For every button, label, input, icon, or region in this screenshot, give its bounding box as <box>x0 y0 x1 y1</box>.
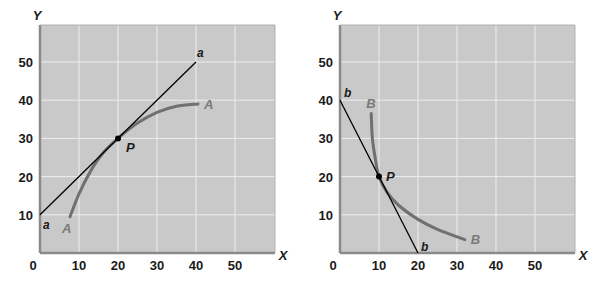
x-tick-label: 0 <box>329 258 336 273</box>
point-p <box>376 174 382 180</box>
y-tick-label: 50 <box>19 55 33 70</box>
y-tick-label: 40 <box>319 93 333 108</box>
line-b-start-label: b <box>344 86 351 100</box>
line-a-end-label: a <box>197 46 204 60</box>
left-chart-svg: 010203040501020304050YXPaaAA <box>0 0 300 288</box>
right-chart: 010203040501020304050YXPbbBB <box>300 0 609 288</box>
right-chart-svg: 010203040501020304050YXPbbBB <box>300 0 609 288</box>
x-tick-label: 20 <box>111 258 125 273</box>
x-tick-label: 0 <box>29 258 36 273</box>
curve-b-end-label: B <box>471 232 480 247</box>
y-tick-label: 30 <box>19 131 33 146</box>
x-tick-label: 40 <box>189 258 203 273</box>
left-chart: 010203040501020304050YXPaaAA <box>0 0 300 288</box>
y-tick-label: 10 <box>319 208 333 223</box>
x-tick-label: 50 <box>528 258 542 273</box>
x-tick-label: 20 <box>411 258 425 273</box>
y-tick-label: 20 <box>19 170 33 185</box>
y-tick-label: 40 <box>19 93 33 108</box>
curve-a-end-label: A <box>203 97 213 112</box>
x-axis-label: X <box>578 248 589 263</box>
x-tick-label: 10 <box>72 258 86 273</box>
y-tick-label: 20 <box>319 170 333 185</box>
y-tick-label: 50 <box>319 55 333 70</box>
point-p-label: P <box>386 169 395 184</box>
x-axis-label: X <box>278 248 289 263</box>
curve-b-start-label: B <box>366 96 375 111</box>
x-tick-label: 40 <box>489 258 503 273</box>
y-tick-label: 30 <box>319 131 333 146</box>
y-axis-label: Y <box>333 8 343 23</box>
line-a-start-label: a <box>43 218 50 232</box>
line-b-end-label: b <box>421 240 428 254</box>
curve-a-start-label: A <box>61 221 71 236</box>
x-tick-label: 30 <box>150 258 164 273</box>
y-axis-label: Y <box>33 8 43 23</box>
point-p-label: P <box>126 140 135 155</box>
point-p <box>115 135 121 141</box>
x-tick-label: 10 <box>372 258 386 273</box>
x-tick-label: 50 <box>228 258 242 273</box>
x-tick-label: 30 <box>450 258 464 273</box>
y-tick-label: 10 <box>19 208 33 223</box>
